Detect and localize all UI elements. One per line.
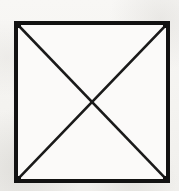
corner-artifact-top-left [14, 21, 21, 28]
figure-canvas: Square with both diagonals drawn A hand-… [0, 0, 179, 191]
corner-artifact-top-right [163, 21, 170, 28]
corner-artifact-bottom-right [163, 176, 170, 183]
corner-artifact-bottom-left [14, 176, 21, 183]
square-with-diagonals-figure: Square with both diagonals drawn A hand-… [0, 0, 179, 191]
